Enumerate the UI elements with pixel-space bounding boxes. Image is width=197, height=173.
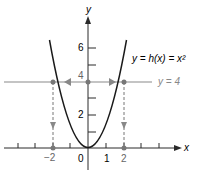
y-tick-label: 4 (78, 70, 84, 81)
x-tick-label: 0 (78, 153, 84, 164)
y-axis-arrow-icon (85, 16, 91, 24)
line-label: y = 4 (158, 76, 180, 87)
y-tick-label: 2 (78, 109, 84, 120)
left-arrow-icon (64, 78, 71, 86)
function-label: y = h(x) = x² (132, 53, 185, 64)
y-ticks (88, 48, 96, 132)
x-tick-label: −2 (44, 152, 55, 163)
x-tick-label: 1 (104, 153, 110, 164)
right-arrow-icon (109, 78, 116, 86)
x-axis-label: x (184, 142, 189, 153)
down-arrow-icon (50, 122, 56, 129)
x-axis-arrow-icon (174, 145, 182, 151)
x-tick-label: 2 (121, 153, 127, 164)
down-arrow-icon (121, 122, 127, 129)
y-tick-label: 6 (78, 42, 84, 53)
y-axis-label: y (86, 4, 91, 15)
